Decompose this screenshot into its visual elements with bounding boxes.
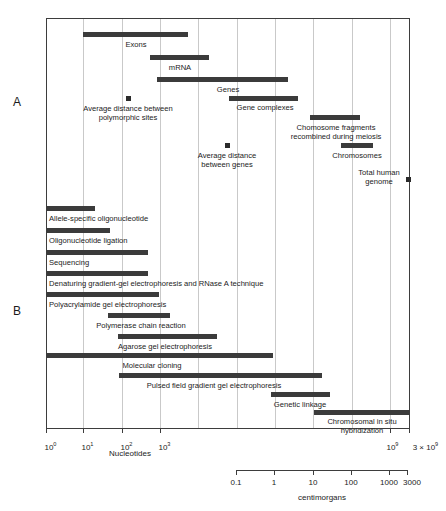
label-denaturing-gradient-gel: Denaturing gradient-gel electrophoresis … — [49, 280, 263, 289]
label-allele-specific-oligonucleotide: Allele-specific oligonucleotide — [49, 215, 148, 224]
nucleotide-tick-label: 103 — [150, 434, 171, 461]
tick-exponent: 9 — [395, 441, 398, 447]
label-agarose-gel: Agarose gel electrophoresis — [118, 343, 212, 352]
tick-mantissa: 10 — [158, 443, 167, 452]
axis-title-centimorgans: centimorgans — [298, 493, 346, 502]
nucleotide-tick-label: 3 × 109 — [404, 434, 438, 461]
nucleotide-tick-label: 109 — [378, 434, 399, 461]
label-average-distance-genes: Average distance between genes — [198, 152, 257, 169]
label-gene-complexes: Gene complexes — [237, 104, 294, 113]
label-chromosomes: Chromosomes — [332, 152, 381, 161]
label-polymorphic-sites: Average distance between polymorphic sit… — [83, 105, 172, 122]
label-molecular-cloning: Molecular cloning — [122, 362, 181, 371]
bar-polymerase-chain-reaction — [108, 313, 170, 318]
bar-gene-complexes — [229, 96, 298, 101]
centimorgan-tick-label: 1 — [272, 478, 276, 487]
tick-mantissa: 3 × 10 — [413, 443, 435, 452]
gridline — [352, 19, 353, 428]
label-polyacrylamide-gel: Polyacrylamide gel electrophoresis — [49, 301, 166, 310]
label-pulsed-field-gradient-gel: Pulsed field gradient gel electrophoresi… — [147, 382, 282, 391]
bar-sequencing — [47, 250, 148, 255]
centimorgan-tick-label: 1000 — [380, 478, 398, 487]
nucleotide-tick-label: 101 — [73, 434, 94, 461]
tick-exponent: 0 — [53, 441, 56, 447]
nucleotide-tick-label: 100 — [36, 434, 57, 461]
centimorgan-tick-label: 10 — [309, 478, 318, 487]
centimorgan-axis-line — [236, 470, 408, 471]
tick-mantissa: 10 — [44, 443, 53, 452]
marker-average-distance-genes — [225, 143, 230, 148]
tick-mantissa: 10 — [81, 443, 90, 452]
panel-letter-b: B — [13, 304, 21, 318]
tick-exponent: 9 — [435, 441, 438, 447]
marker-polymorphic-sites — [126, 96, 131, 101]
centimorgan-tick — [407, 470, 408, 475]
label-mrna: mRNA — [169, 64, 191, 73]
nucleotide-tick — [122, 429, 123, 433]
centimorgan-tick-label: 0.1 — [230, 478, 241, 487]
bar-chromosomes — [341, 143, 373, 148]
bar-molecular-cloning — [47, 353, 273, 358]
nucleotide-tick — [160, 429, 161, 433]
gridline — [390, 19, 391, 428]
axis-title-nucleotides: Nucleotides — [109, 449, 151, 458]
marker-total-human-genome — [406, 177, 411, 182]
nucleotide-tick — [409, 429, 410, 433]
centimorgan-tick — [313, 470, 314, 475]
tick-mantissa: 10 — [386, 443, 395, 452]
centimorgan-tick — [274, 470, 275, 475]
bar-denaturing-gradient-gel — [47, 271, 148, 276]
centimorgan-tick-label: 3000 — [403, 478, 421, 487]
label-genetic-linkage: Genetic linkage — [274, 401, 326, 410]
centimorgan-tick-label: 100 — [344, 478, 357, 487]
bar-mrna — [150, 55, 209, 60]
bar-chromosome-fragments — [310, 115, 360, 120]
centimorgan-tick — [236, 470, 237, 475]
panel-letter-a: A — [13, 95, 21, 109]
gridline — [313, 19, 314, 428]
nucleotide-tick — [83, 429, 84, 433]
bar-oligonucleotide-ligation — [47, 228, 110, 233]
centimorgan-tick — [389, 470, 390, 475]
label-total-human-genome: Total human genome — [358, 169, 399, 186]
nucleotide-tick — [390, 429, 391, 433]
tick-exponent: 2 — [129, 441, 132, 447]
nucleotide-tick — [46, 429, 47, 433]
bar-genetic-linkage — [271, 392, 330, 397]
bar-chromosomal-in-situ — [314, 410, 410, 415]
bar-allele-specific-oligonucleotide — [47, 206, 95, 211]
centimorgan-tick — [351, 470, 352, 475]
label-genes: Genes — [217, 86, 239, 95]
label-chromosome-fragments: Chomosome fragments recombined during me… — [291, 124, 382, 141]
figure-genome-scale-chart: A B Exons mRNA Genes Gene complexes Aver… — [0, 0, 446, 511]
label-oligonucleotide-ligation: Oligonucleotide ligation — [49, 237, 128, 246]
bar-polyacrylamide-gel — [47, 292, 159, 297]
bar-pulsed-field-gradient-gel — [119, 373, 322, 378]
tick-exponent: 3 — [167, 441, 170, 447]
label-sequencing: Sequencing — [49, 259, 89, 268]
bar-exons — [83, 32, 188, 37]
label-exons: Exons — [125, 41, 146, 50]
bar-genes — [157, 77, 288, 82]
label-chromosomal-in-situ: Chromosomal in situ hybridization — [327, 418, 396, 435]
label-polymerase-chain-reaction: Polymerase chain reaction — [96, 322, 185, 331]
tick-exponent: 1 — [90, 441, 93, 447]
bar-agarose-gel — [118, 334, 217, 339]
